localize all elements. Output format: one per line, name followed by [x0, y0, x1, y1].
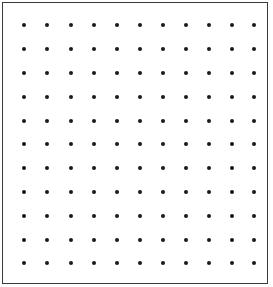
- grid-dot: [138, 142, 142, 146]
- grid-dot: [230, 142, 234, 146]
- grid-dot: [22, 119, 26, 123]
- grid-dot: [230, 166, 234, 170]
- grid-dot: [184, 47, 188, 51]
- grid-dot: [115, 166, 119, 170]
- grid-dot: [115, 190, 119, 194]
- grid-dot: [92, 71, 96, 75]
- grid-dot: [92, 142, 96, 146]
- grid-dot: [45, 95, 49, 99]
- grid-dot: [138, 261, 142, 265]
- grid-dot: [230, 95, 234, 99]
- grid-dot: [138, 214, 142, 218]
- grid-dot: [207, 261, 211, 265]
- grid-dot: [184, 261, 188, 265]
- grid-dot: [115, 214, 119, 218]
- grid-dot: [69, 166, 73, 170]
- grid-dot: [161, 261, 165, 265]
- grid-dot: [207, 47, 211, 51]
- grid-dot: [22, 238, 26, 242]
- grid-dot: [252, 190, 256, 194]
- grid-dot: [92, 190, 96, 194]
- grid-dot: [69, 71, 73, 75]
- grid-dot: [184, 214, 188, 218]
- grid-dot: [252, 261, 256, 265]
- grid-dot: [22, 261, 26, 265]
- grid-dot: [161, 166, 165, 170]
- grid-dot: [22, 95, 26, 99]
- grid-dot: [92, 23, 96, 27]
- grid-dot: [138, 95, 142, 99]
- grid-dot: [230, 238, 234, 242]
- grid-dot: [230, 71, 234, 75]
- grid-dot: [207, 166, 211, 170]
- grid-dot: [230, 214, 234, 218]
- grid-dot: [207, 190, 211, 194]
- grid-dot: [138, 238, 142, 242]
- grid-dot: [22, 190, 26, 194]
- grid-dot: [115, 95, 119, 99]
- grid-dot: [115, 71, 119, 75]
- grid-dot: [22, 71, 26, 75]
- grid-dot: [207, 142, 211, 146]
- grid-dot: [230, 47, 234, 51]
- grid-dot: [252, 214, 256, 218]
- grid-dot: [45, 214, 49, 218]
- grid-dot: [22, 214, 26, 218]
- grid-dot: [161, 214, 165, 218]
- grid-dot: [22, 142, 26, 146]
- grid-dot: [184, 166, 188, 170]
- grid-dot: [230, 23, 234, 27]
- grid-dot: [230, 261, 234, 265]
- grid-dot: [45, 142, 49, 146]
- grid-dot: [230, 190, 234, 194]
- grid-dot: [69, 261, 73, 265]
- grid-dot: [45, 71, 49, 75]
- grid-dot: [45, 261, 49, 265]
- grid-dot: [252, 95, 256, 99]
- grid-dot: [69, 23, 73, 27]
- grid-dot: [184, 71, 188, 75]
- grid-dot: [184, 119, 188, 123]
- grid-dot: [69, 95, 73, 99]
- grid-dot: [161, 23, 165, 27]
- grid-dot: [115, 23, 119, 27]
- grid-dot: [138, 166, 142, 170]
- grid-dot: [161, 119, 165, 123]
- grid-dot: [252, 71, 256, 75]
- grid-dot: [115, 47, 119, 51]
- grid-dot: [92, 214, 96, 218]
- grid-dot: [115, 119, 119, 123]
- grid-dot: [138, 71, 142, 75]
- grid-dot: [22, 23, 26, 27]
- grid-dot: [138, 119, 142, 123]
- grid-dot: [184, 238, 188, 242]
- grid-dot: [22, 166, 26, 170]
- grid-dot: [92, 119, 96, 123]
- grid-dot: [161, 142, 165, 146]
- grid-dot: [207, 23, 211, 27]
- grid-dot: [69, 142, 73, 146]
- grid-dot: [45, 47, 49, 51]
- grid-dot: [184, 190, 188, 194]
- grid-dot: [92, 238, 96, 242]
- grid-dot: [230, 119, 234, 123]
- grid-dot: [207, 214, 211, 218]
- grid-dot: [69, 119, 73, 123]
- grid-dot: [92, 47, 96, 51]
- grid-dot: [115, 261, 119, 265]
- grid-dot: [161, 238, 165, 242]
- grid-dot: [92, 166, 96, 170]
- grid-dot: [252, 142, 256, 146]
- grid-dot: [207, 95, 211, 99]
- grid-dot: [92, 261, 96, 265]
- grid-dot: [161, 190, 165, 194]
- grid-dot: [138, 47, 142, 51]
- grid-dot: [115, 238, 119, 242]
- grid-dot: [161, 95, 165, 99]
- grid-dot: [45, 166, 49, 170]
- grid-dot: [184, 23, 188, 27]
- grid-dot: [252, 119, 256, 123]
- grid-dot: [161, 47, 165, 51]
- grid-dot: [252, 23, 256, 27]
- grid-dot: [207, 71, 211, 75]
